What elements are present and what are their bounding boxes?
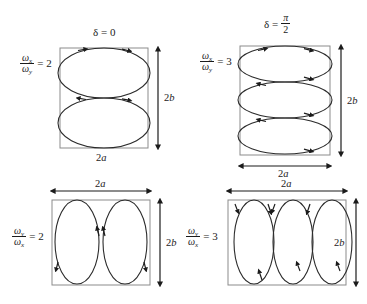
width-label-top-left: 2a [96, 152, 107, 163]
lissajous-lobe [103, 200, 147, 284]
lissajous-lobe [238, 46, 332, 82]
direction-arrow [307, 204, 310, 213]
direction-arrow [297, 263, 300, 271]
direction-arrow [144, 262, 146, 270]
direction-arrow [304, 113, 312, 115]
height-label-bottom-left: 2b [166, 237, 177, 248]
lissajous-lobe [55, 200, 99, 284]
lissajous-lobe [238, 118, 332, 154]
lissajous-lobe [58, 48, 150, 98]
ratio-numerator: ωx [200, 51, 214, 61]
ratio-value: = 3 [214, 56, 231, 67]
lissajous-lobe [238, 82, 332, 118]
direction-arrow [235, 204, 238, 212]
height-label-bottom-right: 2b [334, 237, 345, 248]
ratio-denominator: ωx [186, 236, 200, 247]
panel-top-right [238, 46, 341, 166]
direction-arrow [304, 77, 312, 79]
height-label-top-right: 2b [347, 95, 358, 106]
phase-denominator: 2 [281, 23, 290, 35]
lissajous-lobe [58, 98, 150, 148]
direction-arrow [337, 263, 340, 271]
ratio-denominator: ωy [20, 63, 34, 74]
ratio-value: = 2 [26, 231, 43, 242]
panel-frame [52, 200, 150, 285]
ratio-fraction: ωy ωx [12, 226, 26, 247]
phase-text: δ = [264, 18, 278, 30]
ratio-label-bottom-left: ωy ωx = 2 [12, 226, 44, 247]
ratio-numerator: ωx [20, 53, 34, 63]
lissajous-lobe [234, 200, 274, 284]
direction-arrow [259, 271, 262, 280]
direction-arrow [78, 98, 86, 99]
direction-arrow [272, 204, 275, 212]
ratio-numerator: ωy [12, 226, 26, 236]
phase-numerator: π [281, 12, 290, 23]
panel-frame [240, 46, 330, 155]
ratio-value: = 2 [34, 58, 51, 69]
panel-bottom-left [52, 191, 160, 285]
lissajous-figure-canvas [0, 0, 367, 304]
panel-frame [228, 200, 346, 285]
ratio-fraction: ωx ωy [20, 53, 34, 74]
panel-top-left [58, 48, 158, 148]
ratio-label-top-right: ωx ωy = 3 [200, 51, 232, 72]
direction-arrow [268, 204, 271, 213]
ratio-value: = 3 [200, 231, 217, 242]
ratio-fraction: ωy ωx [186, 226, 200, 247]
phase-label-top-left: δ = 0 [93, 26, 115, 38]
ratio-label-bottom-right: ωy ωx = 3 [186, 226, 218, 247]
ratio-denominator: ωy [200, 61, 214, 72]
phase-fraction: π 2 [281, 12, 290, 35]
height-label-top-left: 2b [164, 92, 175, 103]
ratio-fraction: ωx ωy [200, 51, 214, 72]
ratio-label-top-left: ωx ωy = 2 [20, 53, 52, 74]
phase-text: δ = 0 [93, 26, 115, 38]
ratio-denominator: ωx [12, 236, 26, 247]
direction-arrow [304, 149, 312, 151]
width-label-bottom-right: 2a [281, 178, 292, 189]
phase-label-top-right: δ = π 2 [264, 12, 290, 35]
ratio-numerator: ωy [186, 226, 200, 236]
width-label-bottom-left: 2a [95, 178, 106, 189]
direction-arrow [56, 262, 58, 270]
